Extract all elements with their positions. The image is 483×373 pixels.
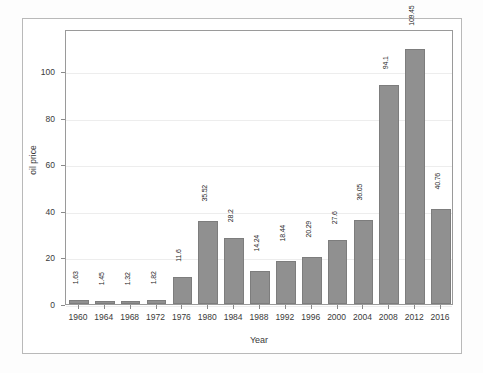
bar[interactable] <box>302 257 322 304</box>
x-tick-mark <box>259 305 260 309</box>
y-tick-label: 20 <box>29 253 55 263</box>
x-tick-mark <box>311 305 312 309</box>
bar[interactable] <box>328 240 348 304</box>
y-tick-mark <box>61 119 65 120</box>
x-tick-mark <box>104 305 105 309</box>
bar-value-label: 40.76 <box>434 173 441 190</box>
bar[interactable] <box>95 301 115 304</box>
plot-area: 1.631.451.321.8211.635.5228.214.2418.442… <box>65 30 453 305</box>
bar-slot: 11.6 <box>169 31 195 304</box>
bar-slot: 20.29 <box>299 31 325 304</box>
x-tick-mark <box>440 305 441 309</box>
bar-value-label: 18.44 <box>279 225 286 242</box>
bars-layer: 1.631.451.321.8211.635.5228.214.2418.442… <box>66 31 452 304</box>
y-tick-mark <box>61 72 65 73</box>
bar[interactable] <box>431 209 451 304</box>
bar-slot: 36.05 <box>351 31 377 304</box>
bar-slot: 94.1 <box>376 31 402 304</box>
bar[interactable] <box>198 221 218 304</box>
bar-value-label: 1.82 <box>150 271 157 284</box>
bar-value-label: 1.32 <box>124 272 131 285</box>
x-tick-mark <box>337 305 338 309</box>
bar-value-label: 11.6 <box>175 249 182 261</box>
y-tick-mark <box>61 212 65 213</box>
bar[interactable] <box>69 300 89 304</box>
bar[interactable] <box>121 301 141 304</box>
y-tick-label: 80 <box>29 114 55 124</box>
bar-value-label: 94.1 <box>382 56 389 69</box>
bar-value-label: 1.45 <box>98 272 105 285</box>
bar-slot: 1.63 <box>66 31 92 304</box>
y-tick-mark <box>61 258 65 259</box>
y-tick-mark <box>61 305 65 306</box>
y-tick-label: 0 <box>29 300 55 310</box>
x-tick-mark <box>207 305 208 309</box>
y-tick-label: 60 <box>29 160 55 170</box>
x-tick-mark <box>414 305 415 309</box>
bar-slot: 35.52 <box>195 31 221 304</box>
x-tick-mark <box>362 305 363 309</box>
y-tick-label: 40 <box>29 207 55 217</box>
bar-value-label: 20.29 <box>305 221 312 238</box>
y-tick-label: 100 <box>29 67 55 77</box>
x-tick-mark <box>181 305 182 309</box>
bar[interactable] <box>224 238 244 304</box>
plot-inner: 1.631.451.321.8211.635.5228.214.2418.442… <box>66 31 452 304</box>
bar-value-label: 27.6 <box>331 211 338 224</box>
bar-slot: 1.32 <box>118 31 144 304</box>
bar-slot: 1.82 <box>144 31 170 304</box>
bar-slot: 109.45 <box>402 31 428 304</box>
bar-value-label: 1.63 <box>72 272 79 285</box>
bar[interactable] <box>354 220 374 304</box>
bar[interactable] <box>276 261 296 304</box>
bar-value-label: 14.24 <box>253 235 260 252</box>
bar-slot: 1.45 <box>92 31 118 304</box>
bar-slot: 40.76 <box>428 31 454 304</box>
x-tick-label: 2016 <box>423 312 457 322</box>
x-axis-title: Year <box>65 335 453 345</box>
x-tick-mark <box>388 305 389 309</box>
bar-value-label: 36.05 <box>356 184 363 201</box>
bar-slot: 27.6 <box>325 31 351 304</box>
bar[interactable] <box>379 85 399 304</box>
bar[interactable] <box>147 300 167 304</box>
bar-value-label: 28.2 <box>227 210 234 223</box>
x-tick-mark <box>285 305 286 309</box>
bar-slot: 28.2 <box>221 31 247 304</box>
x-tick-mark <box>233 305 234 309</box>
x-tick-mark <box>156 305 157 309</box>
bar-slot: 14.24 <box>247 31 273 304</box>
x-tick-mark <box>78 305 79 309</box>
bar[interactable] <box>173 277 193 304</box>
x-tick-mark <box>130 305 131 309</box>
bar[interactable] <box>405 49 425 304</box>
bar-slot: 18.44 <box>273 31 299 304</box>
bar-value-label: 35.52 <box>201 185 208 202</box>
y-tick-mark <box>61 165 65 166</box>
chart-figure: oil price 1.631.451.321.8211.635.5228.21… <box>0 0 483 373</box>
bar-value-label: 109.45 <box>408 6 415 26</box>
bar[interactable] <box>250 271 270 304</box>
